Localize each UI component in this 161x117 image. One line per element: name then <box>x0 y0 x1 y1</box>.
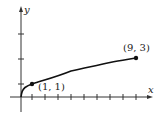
x-axis-label: x <box>148 84 154 95</box>
point-9-3 <box>134 56 138 60</box>
point2-label: (9, 3) <box>123 42 150 53</box>
y-axis-arrow-icon <box>19 6 23 12</box>
y-axis-label: y <box>23 4 30 15</box>
chart-figure: (1, 1) (9, 3) x y <box>0 0 161 117</box>
x-axis-arrow-icon <box>147 95 153 99</box>
point-1-1 <box>30 82 34 86</box>
point1-label: (1, 1) <box>38 81 65 92</box>
